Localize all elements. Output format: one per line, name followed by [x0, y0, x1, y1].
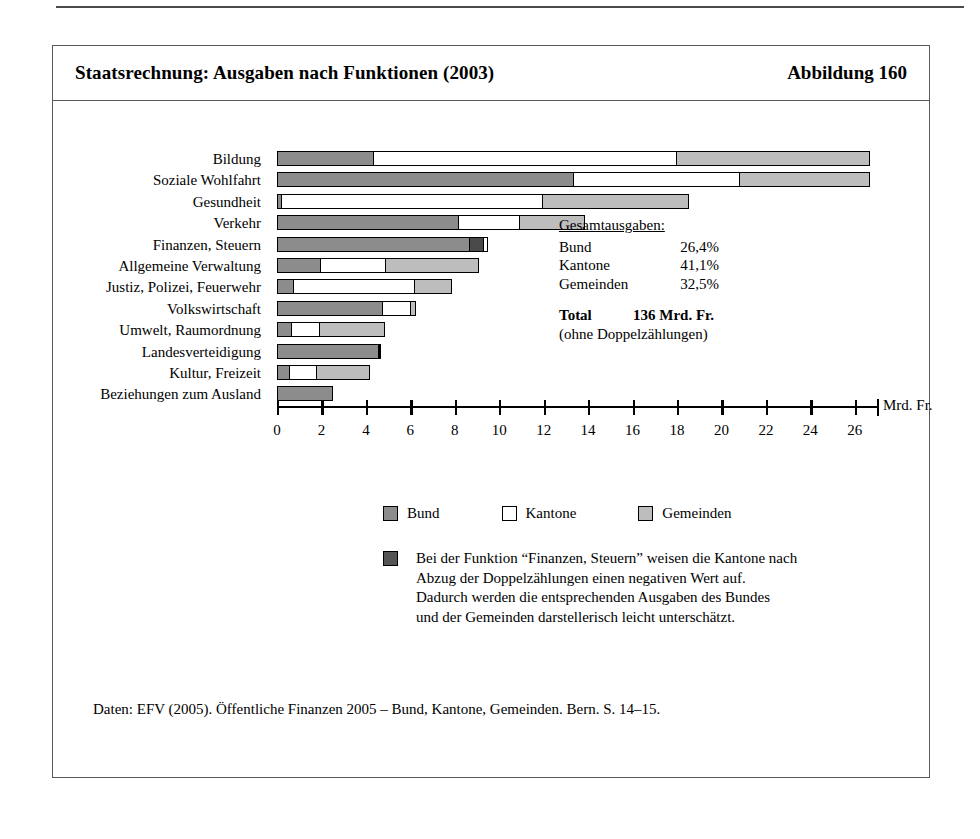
stacked-bar[interactable]	[277, 279, 452, 294]
bar-segment-kantone[interactable]	[289, 365, 318, 380]
bar-segment-gemeinden[interactable]	[319, 322, 386, 337]
bar-segment-kantone[interactable]	[483, 237, 487, 252]
axis-tick-label: 4	[362, 422, 370, 439]
bar-segment-bund[interactable]	[277, 344, 379, 359]
legend-label: Gemeinden	[662, 505, 731, 522]
bund-swatch-icon	[383, 506, 398, 521]
stacked-bar[interactable]	[277, 344, 381, 359]
bar-segment-gemeinden[interactable]	[739, 172, 870, 187]
bar-segment-kantone[interactable]	[573, 172, 740, 187]
legend-item-kantone[interactable]: Kantone	[502, 505, 577, 522]
stacked-bar[interactable]	[277, 237, 488, 252]
category-label: Soziale Wohlfahrt	[53, 170, 269, 191]
category-label: Finanzen, Steuern	[53, 235, 269, 256]
stacked-bar[interactable]	[277, 322, 385, 337]
bar-row[interactable]	[277, 192, 877, 213]
totals-row-label: Gemeinden	[559, 275, 655, 294]
axis-tick	[633, 400, 635, 415]
totals-heading: Gesamtausgaben:	[559, 216, 799, 235]
axis-tick	[677, 400, 679, 415]
category-label: Kultur, Freizeit	[53, 363, 269, 384]
bar-segment-gemeinden[interactable]	[410, 301, 417, 316]
bar-segment-kantone[interactable]	[291, 322, 320, 337]
bar-segment-kantone[interactable]	[281, 194, 543, 209]
page-top-rule	[56, 6, 964, 8]
figure-title: Staatsrechnung: Ausgaben nach Funktionen…	[75, 62, 494, 84]
bar-segment-gemeinden[interactable]	[414, 279, 452, 294]
bar-segment-gemeinden[interactable]	[676, 151, 869, 166]
bar-segment-bund[interactable]	[277, 301, 384, 316]
stacked-bar[interactable]	[277, 194, 689, 209]
bar-segment-bund[interactable]	[277, 151, 375, 166]
stacked-bar[interactable]	[277, 215, 585, 230]
bar-segment-bund[interactable]	[277, 258, 321, 273]
axis-tick	[544, 400, 546, 415]
stacked-bar[interactable]	[277, 258, 479, 273]
source-line: Daten: EFV (2005). Öffentliche Finanzen …	[93, 701, 660, 718]
bar-row[interactable]	[277, 170, 877, 191]
category-label: Verkehr	[53, 213, 269, 234]
bar-segment-kantone[interactable]	[293, 279, 415, 294]
stacked-bar[interactable]	[277, 365, 370, 380]
axis-unit-label: Mrd. Fr.	[883, 397, 933, 414]
legend-label: Bund	[407, 505, 440, 522]
axis-tick	[410, 400, 412, 415]
category-label: Umwelt, Raumordnung	[53, 320, 269, 341]
bar-segment-bund[interactable]	[277, 237, 470, 252]
axis-tick-label: 16	[625, 422, 640, 439]
axis-tick	[721, 400, 723, 415]
bar-segment-gemeinden[interactable]	[379, 344, 381, 359]
bar-segment-kantone[interactable]	[382, 301, 411, 316]
category-label: Landesverteidigung	[53, 342, 269, 363]
axis-tick	[855, 400, 857, 415]
footnote-block: Bei der Funktion “Finanzen, Steuern” wei…	[383, 549, 863, 627]
axis-tick-label: 14	[581, 422, 596, 439]
bar-row[interactable]	[277, 149, 877, 170]
totals-row-label: Kantone	[559, 256, 655, 275]
category-label: Beziehungen zum Ausland	[53, 384, 269, 405]
axis-tick	[277, 400, 279, 415]
category-label: Volkswirtschaft	[53, 299, 269, 320]
axis-end-cap	[877, 399, 879, 416]
bar-segment-gemeinden[interactable]	[385, 258, 478, 273]
bar-segment-bund[interactable]	[277, 172, 575, 187]
legend-label: Kantone	[526, 505, 577, 522]
stacked-bar[interactable]	[277, 301, 416, 316]
negativ-swatch-icon	[383, 551, 398, 566]
axis-tick-label: 10	[492, 422, 507, 439]
axis-tick	[499, 400, 501, 415]
kantone-swatch-icon	[502, 506, 517, 521]
bar-segment-kantone[interactable]	[458, 215, 520, 230]
footnote-text: Bei der Funktion “Finanzen, Steuern” wei…	[416, 549, 797, 627]
footnote-line: und der Gemeinden darstellerisch leicht …	[416, 608, 797, 628]
axis-tick-label: 2	[318, 422, 326, 439]
bar-segment-gemeinden[interactable]	[316, 365, 369, 380]
stacked-bar[interactable]	[277, 386, 333, 401]
footnote-line: Bei der Funktion “Finanzen, Steuern” wei…	[416, 549, 797, 569]
legend-item-gemeinden[interactable]: Gemeinden	[638, 505, 731, 522]
bar-segment-bund[interactable]	[277, 386, 333, 401]
bar-segment-gemeinden[interactable]	[542, 194, 689, 209]
axis-tick-label: 12	[536, 422, 551, 439]
footnote-line: Abzug der Doppelzählungen einen negative…	[416, 569, 797, 589]
bar-row[interactable]	[277, 363, 877, 384]
totals-row: Gemeinden32,5%	[559, 275, 799, 294]
gemeinden-swatch-icon	[638, 506, 653, 521]
bar-segment-bund[interactable]	[277, 279, 295, 294]
totals-total-label: Total	[559, 306, 633, 325]
stacked-bar[interactable]	[277, 151, 870, 166]
axis-tick	[766, 400, 768, 415]
bar-segment-kantone[interactable]	[373, 151, 677, 166]
legend-item-bund[interactable]: Bund	[383, 505, 440, 522]
bar-row[interactable]	[277, 342, 877, 363]
value-axis: Mrd. Fr. 02468101214161820222426	[277, 406, 877, 407]
category-label: Bildung	[53, 149, 269, 170]
axis-tick-label: 6	[407, 422, 415, 439]
axis-tick-label: 26	[847, 422, 862, 439]
totals-note: (ohne Doppelzählungen)	[559, 325, 799, 344]
bar-segment-kantone[interactable]	[320, 258, 387, 273]
category-label: Allgemeine Verwaltung	[53, 256, 269, 277]
stacked-bar[interactable]	[277, 172, 870, 187]
bar-segment-bund[interactable]	[277, 215, 459, 230]
totals-row-value: 32,5%	[655, 275, 719, 294]
